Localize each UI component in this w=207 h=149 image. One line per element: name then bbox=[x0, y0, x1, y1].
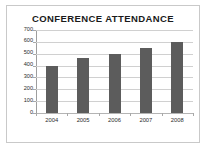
y-axis-tick-label: 100 bbox=[12, 98, 33, 105]
y-axis-tick-label: 0 bbox=[12, 110, 33, 117]
y-axis-tick-text: 400 bbox=[24, 62, 33, 68]
x-axis-tick-labels: 20042005200620072008 bbox=[36, 118, 193, 130]
chart-screenshot: CONFERENCE ATTENDANCE 010020030040050060… bbox=[0, 0, 207, 149]
chart-frame: CONFERENCE ATTENDANCE 010020030040050060… bbox=[6, 5, 200, 143]
y-axis-tick-text: 300 bbox=[24, 74, 33, 80]
x-axis-tick-mark bbox=[130, 113, 131, 116]
bar bbox=[109, 54, 121, 113]
y-axis-tick-mark bbox=[33, 66, 36, 67]
y-axis-tick-text: 500 bbox=[24, 50, 33, 56]
y-axis-tick-label: 700 bbox=[12, 27, 33, 34]
y-axis-tick-mark bbox=[33, 89, 36, 90]
y-axis-tick-mark bbox=[33, 77, 36, 78]
y-axis-tick-label: 300 bbox=[12, 74, 33, 81]
x-axis-tick-label: 2007 bbox=[130, 118, 161, 124]
y-axis-tick-label: 500 bbox=[12, 50, 33, 57]
gridline bbox=[36, 30, 193, 31]
bar bbox=[46, 66, 58, 113]
x-axis-tick-label: 2006 bbox=[99, 118, 130, 124]
y-axis-tick-text: 100 bbox=[24, 98, 33, 104]
chart-title: CONFERENCE ATTENDANCE bbox=[7, 13, 199, 24]
y-axis-tick-mark bbox=[33, 54, 36, 55]
x-axis-tick-label: 2004 bbox=[36, 118, 67, 124]
gridline bbox=[36, 113, 193, 114]
x-axis-tick-label: 2005 bbox=[67, 118, 98, 124]
y-axis-tick-text: 200 bbox=[24, 86, 33, 92]
bar bbox=[140, 48, 152, 113]
x-axis-tick-mark bbox=[36, 113, 37, 116]
y-axis-tick-label: 600 bbox=[12, 38, 33, 45]
y-axis-tick-mark bbox=[33, 42, 36, 43]
x-axis-tick-mark bbox=[162, 113, 163, 116]
gridline bbox=[36, 42, 193, 43]
x-axis-tick-label: 2008 bbox=[162, 118, 193, 124]
y-axis-tick-label: 200 bbox=[12, 86, 33, 93]
y-axis-tick-labels: 0100200300400500600700 bbox=[12, 30, 33, 113]
bar bbox=[171, 42, 183, 113]
y-axis-tick-mark bbox=[33, 30, 36, 31]
plot-area bbox=[36, 30, 193, 113]
y-axis-tick-text: 700 bbox=[24, 27, 33, 33]
bar bbox=[77, 58, 89, 113]
x-axis-tick-mark bbox=[193, 113, 194, 116]
x-axis-tick-mark bbox=[67, 113, 68, 116]
x-axis-tick-mark bbox=[99, 113, 100, 116]
y-axis-tick-text: 600 bbox=[24, 38, 33, 44]
y-axis-tick-mark bbox=[33, 101, 36, 102]
y-axis-tick-label: 400 bbox=[12, 62, 33, 69]
